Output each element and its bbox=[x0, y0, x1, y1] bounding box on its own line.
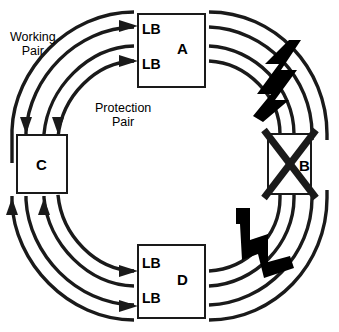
arrowheads-into-d-left bbox=[119, 265, 138, 312]
arrowhead-d-left-1 bbox=[119, 265, 138, 277]
node-d-loopback-2: LB bbox=[142, 291, 161, 305]
arc-d-c-inner2 bbox=[58, 195, 134, 271]
working-pair-label-line1: Working bbox=[10, 30, 56, 44]
node-c-letter: C bbox=[36, 157, 47, 172]
arrowhead-c-bottom-2 bbox=[38, 198, 50, 215]
node-a-loopback-2: LB bbox=[142, 57, 161, 71]
arrowheads-into-c-top bbox=[20, 117, 64, 134]
arc-group-d-to-c bbox=[12, 195, 134, 320]
node-d-letter: D bbox=[177, 272, 188, 287]
node-d-loopback-1: LB bbox=[142, 256, 161, 270]
working-pair-label: Working Pair bbox=[10, 30, 56, 59]
ring-diagram-canvas: LB LB A B C LB LB D Working Pair Protect… bbox=[0, 0, 339, 332]
node-b-letter: B bbox=[299, 158, 310, 173]
node-a-letter: A bbox=[177, 41, 188, 56]
arrowhead-a-left-2 bbox=[119, 55, 138, 67]
node-a-loopback-1: LB bbox=[142, 22, 161, 36]
protection-pair-label-line1: Protection bbox=[95, 101, 151, 115]
arc-b-d-outer1 bbox=[209, 190, 327, 320]
protection-pair-label: Protection Pair bbox=[95, 101, 151, 130]
protection-pair-label-line2: Pair bbox=[95, 115, 151, 129]
working-pair-label-line2: Pair bbox=[10, 44, 56, 58]
arc-group-b-to-d bbox=[209, 190, 327, 320]
arc-group-a-to-b bbox=[209, 12, 327, 140]
arrowhead-a-left-1 bbox=[119, 20, 138, 32]
arrowhead-d-left-2 bbox=[119, 300, 138, 312]
arrowhead-c-bottom-1 bbox=[6, 198, 18, 215]
arrowhead-c-top-1 bbox=[20, 117, 32, 134]
arc-a-b-outer1 bbox=[209, 12, 327, 140]
arrowhead-c-top-2 bbox=[52, 117, 64, 134]
arrowheads-into-a-left bbox=[119, 20, 138, 67]
